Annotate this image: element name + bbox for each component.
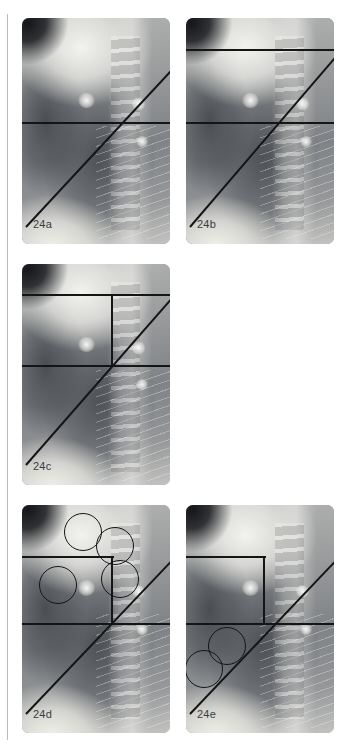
radiograph-verts xyxy=(111,282,141,472)
radiograph-image-24b xyxy=(186,18,334,244)
annotation-rectangle-right-edge-24c xyxy=(111,294,113,367)
radiograph-hilum3 xyxy=(300,136,312,147)
panel-label-24b: 24b xyxy=(197,218,216,230)
annotation-lower-horizontal-line-24b xyxy=(186,122,334,124)
radiograph-hilum3 xyxy=(136,136,148,147)
xray-panel-24e[interactable]: 24e xyxy=(186,505,334,733)
panel-label-24a: 24a xyxy=(33,218,52,230)
radiograph-hilum1 xyxy=(242,93,258,109)
annotation-roi-circle-3-24d xyxy=(101,560,139,598)
radiograph-verts xyxy=(275,36,305,230)
xray-panel-24c[interactable]: 24c xyxy=(22,264,170,485)
radiograph-hilum1 xyxy=(78,580,94,596)
xray-panel-24b[interactable]: 24b xyxy=(186,18,334,244)
radiograph-hilum1 xyxy=(78,337,94,352)
radiograph-image-24e xyxy=(186,505,334,733)
annotation-upper-horizontal-line-24b xyxy=(186,49,334,51)
annotation-lower-horizontal-line-24a xyxy=(22,122,170,124)
radiograph-hilum3 xyxy=(136,624,148,635)
xray-panel-24d[interactable]: 24d xyxy=(22,505,170,733)
annotation-lower-horizontal-line-24c xyxy=(22,365,170,367)
annotation-upper-horizontal-line-24c xyxy=(22,294,170,296)
radiograph-hilum3 xyxy=(300,624,312,635)
radiograph-verts xyxy=(111,36,141,230)
panel-label-24e: 24e xyxy=(197,708,216,720)
annotation-roi-circle-2-24e xyxy=(186,650,223,688)
annotation-rectangle-right-edge-24e xyxy=(263,556,265,625)
radiograph-hilum3 xyxy=(136,379,148,390)
figure-page: 24a24b24c24d24e xyxy=(0,0,357,753)
annotation-rectangle-top-edge-24e xyxy=(186,556,266,558)
annotation-lower-horizontal-line-24e xyxy=(186,623,334,625)
left-margin-rule xyxy=(7,14,8,740)
panel-label-24c: 24c xyxy=(33,460,51,472)
panel-label-24d: 24d xyxy=(33,708,52,720)
annotation-roi-circle-2-24d xyxy=(96,527,134,565)
annotation-roi-circle-4-24d xyxy=(39,566,77,604)
radiograph-hilum1 xyxy=(242,580,258,596)
radiograph-image-24a xyxy=(22,18,170,244)
radiograph-image-24c xyxy=(22,264,170,485)
annotation-lower-horizontal-line-24d xyxy=(22,623,170,625)
radiograph-hilum1 xyxy=(78,93,94,109)
xray-panel-24a[interactable]: 24a xyxy=(22,18,170,244)
